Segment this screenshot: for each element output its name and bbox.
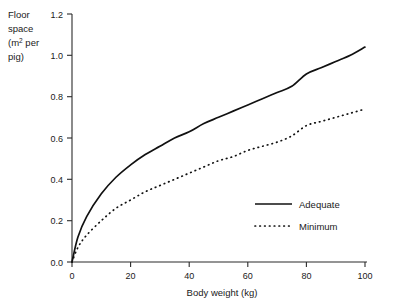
y-tick-label-0p0: 0.0 [50,258,63,268]
y-axis-title-line-1: Floor [8,9,30,20]
x-tick-label-20: 20 [126,271,136,281]
y-axis-title-line-4: pig) [8,51,24,62]
x-axis-title: Body weight (kg) [187,287,258,298]
x-tick-label-40: 40 [184,271,194,281]
y-tick-label-0p4: 0.4 [50,175,63,185]
y-tick-label-0p6: 0.6 [50,134,63,144]
x-axis-ticks [72,262,365,267]
y-tick-label-0p8: 0.8 [50,92,63,102]
legend-label-adequate: Adequate [299,199,340,210]
y-axis-title-line-3: (m2 per [8,37,39,49]
x-axis: 0 20 40 60 80 100 Body weight (kg) [69,262,372,298]
y-tick-label-1p2: 1.2 [50,10,63,20]
legend-label-minimum: Minimum [299,221,338,232]
y-axis-tick-labels: 1.2 1.0 0.8 0.6 0.4 0.2 0.0 [50,10,63,268]
x-tick-label-0: 0 [69,271,74,281]
y-tick-label-1p0: 1.0 [50,51,63,61]
y-tick-label-0p2: 0.2 [50,216,63,226]
x-tick-label-100: 100 [357,271,372,281]
floor-space-chart: Floor space (m2 per pig) 1.2 1.0 0.8 0.6… [0,0,394,304]
legend: Adequate Minimum [255,199,340,232]
x-tick-label-60: 60 [243,271,253,281]
y-axis: 1.2 1.0 0.8 0.6 0.4 0.2 0.0 [50,10,72,268]
series-line-minimum [72,109,365,262]
y-axis-title-line-2: space [8,23,33,34]
y-axis-title: Floor space (m2 per pig) [8,9,39,62]
y-axis-ticks [67,14,72,262]
x-tick-label-80: 80 [301,271,311,281]
x-axis-tick-labels: 0 20 40 60 80 100 [69,271,372,281]
